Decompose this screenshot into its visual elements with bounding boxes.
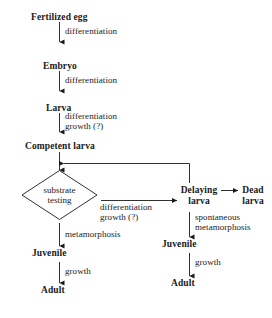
node-adult-right: Adult (171, 278, 195, 289)
development-pathway-diagram: Fertilized egg Embryo Larva Competent la… (0, 0, 272, 318)
larva-to-competent-line-2: growth (?) (65, 122, 117, 132)
node-competent-larva: Competent larva (25, 141, 95, 152)
substrate-testing-line-2: testing (29, 195, 90, 205)
edge-label-testing-to-juvenile: metamorphosis (65, 230, 121, 240)
node-juvenile-left: Juvenile (32, 248, 67, 259)
delaying-larva-line-2: larva (177, 196, 221, 207)
substrate-testing-line-1: substrate (29, 185, 90, 195)
edge-label-juvenile-to-adult-left: growth (65, 267, 91, 277)
node-adult-left: Adult (41, 285, 65, 296)
edge-label-delaying-to-juvenile: spontaneous metamorphosis (195, 213, 251, 232)
edge-label-juvenile-to-adult-right: growth (195, 258, 221, 268)
delaying-to-juvenile-line-2: metamorphosis (195, 223, 251, 233)
diagram-connectors (0, 0, 272, 318)
arrow-delaying-feedback-to-testing (64, 164, 190, 184)
dead-larva-line-1: Dead (239, 185, 267, 196)
edge-label-testing-to-delaying: differentiation growth (?) (100, 203, 152, 222)
testing-to-delaying-line-2: growth (?) (100, 213, 152, 223)
node-embryo: Embryo (43, 61, 77, 72)
delaying-larva-line-1: Delaying (177, 185, 221, 196)
edge-label-larva-to-competent: differentiation growth (?) (65, 112, 117, 131)
dead-larva-line-2: larva (239, 196, 267, 207)
edge-label-egg-to-embryo: differentiation (65, 27, 117, 37)
node-dead-larva: Dead larva (239, 185, 267, 206)
node-fertilized-egg: Fertilized egg (31, 12, 88, 23)
node-delaying-larva: Delaying larva (177, 185, 221, 206)
node-substrate-testing: substrate testing (29, 185, 90, 205)
edge-label-embryo-to-larva: differentiation (65, 76, 117, 86)
node-juvenile-right: Juvenile (162, 239, 197, 250)
